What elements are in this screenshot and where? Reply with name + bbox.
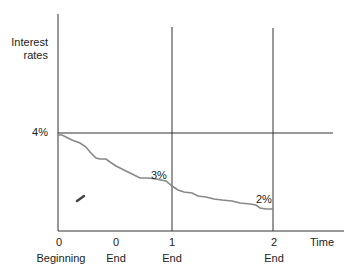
x-tick-0-end: 0 bbox=[113, 236, 119, 249]
annotation-2-percent: 2% bbox=[256, 193, 272, 206]
caption-end-0: End bbox=[106, 252, 126, 265]
x-tick-2: 2 bbox=[271, 236, 277, 249]
annotation-3-percent: 3% bbox=[151, 169, 167, 182]
caption-end-1: End bbox=[162, 252, 182, 265]
x-tick-0-beginning: 0 bbox=[56, 236, 62, 249]
x-axis-label-time: Time bbox=[310, 236, 334, 249]
y-axis-label-line1: Interest bbox=[8, 36, 48, 49]
y-tick-4-percent: 4% bbox=[20, 126, 48, 139]
caption-end-2: End bbox=[264, 252, 284, 265]
stray-mark bbox=[77, 196, 84, 201]
chart-canvas bbox=[0, 0, 360, 279]
caption-beginning: Beginning bbox=[37, 252, 86, 265]
x-tick-1: 1 bbox=[169, 236, 175, 249]
y-axis-label-line2: rates bbox=[8, 49, 48, 62]
